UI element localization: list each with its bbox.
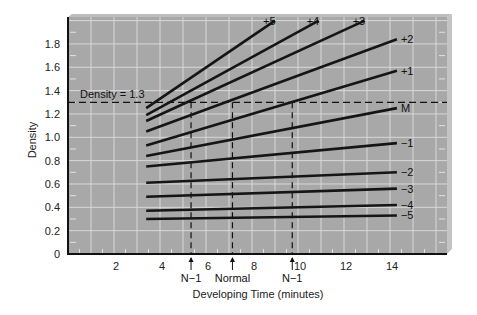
- x-tick-label: 4: [159, 260, 165, 272]
- density-reference-label: Density = 1.3: [80, 88, 145, 100]
- marker-label: N−1: [181, 272, 202, 284]
- series-label: +5: [263, 15, 276, 27]
- bevel-top: [68, 14, 452, 17]
- y-tick-label: 1.2: [45, 108, 60, 120]
- marker-arrow-head: [189, 257, 194, 262]
- x-tick-label: 6: [205, 260, 211, 272]
- bevel-right: [447, 14, 452, 254]
- series-label: −5: [401, 209, 414, 221]
- y-tick-label: 1.8: [45, 38, 60, 50]
- y-tick-label: 1.6: [45, 61, 60, 73]
- y-tick-label: 1.4: [45, 85, 60, 97]
- x-tick-label: 8: [251, 260, 257, 272]
- y-tick-label: 0.8: [45, 155, 60, 167]
- y-tick-label: 0.2: [45, 225, 60, 237]
- x-tick-label: 12: [340, 260, 352, 272]
- marker-arrow-head: [230, 257, 235, 262]
- y-tick-label: 0: [54, 248, 60, 260]
- series-label: +2: [401, 33, 414, 45]
- marker-label: Normal: [215, 272, 250, 284]
- series-label: +1: [401, 65, 414, 77]
- series-label: +3: [353, 15, 366, 27]
- y-axis-title: Density: [26, 121, 38, 158]
- series-label: −2: [401, 166, 414, 178]
- y-tick-label: 0.4: [45, 201, 60, 213]
- x-tick-label: 14: [386, 260, 398, 272]
- density-vs-developing-time-chart: N−1NormalN−1 +5+4+3+2+1M−1−2−3−4−5 24681…: [0, 0, 477, 315]
- x-tick-label: 10: [294, 260, 306, 272]
- series-label: M: [401, 102, 410, 114]
- series-label: −3: [401, 183, 414, 195]
- x-axis-title: Developing Time (minutes): [193, 288, 324, 300]
- x-tick-label: 2: [113, 260, 119, 272]
- y-tick-label: 1.0: [45, 131, 60, 143]
- marker-label: N−1: [282, 272, 303, 284]
- series-label: +4: [307, 15, 320, 27]
- series-label: −1: [401, 137, 414, 149]
- y-tick-label: 0.6: [45, 178, 60, 190]
